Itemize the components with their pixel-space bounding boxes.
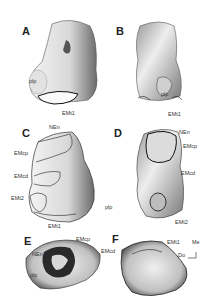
annotation-emcd: EMcd [14,174,28,180]
annotation-nen: NEn [32,252,43,258]
annotation-emt1: EMt1 [48,224,61,230]
panel-label-a: A [22,26,30,37]
annotation-nen: NEn [49,125,60,131]
annotation-emcp: EMcp [14,151,28,157]
orientation-dorsal: Do [178,253,185,259]
annotation-emcp: EMcp [183,144,197,150]
annotation-plp: plp [29,79,36,85]
bone-view-e [26,240,100,289]
annotation-emt1: EMt1 [168,112,181,118]
annotation-plp: plp [161,92,168,98]
panel-label-e: E [24,236,31,247]
bone-view-c [29,132,94,222]
annotation-plp: plp [105,205,112,211]
panel-label-f: F [112,234,119,245]
annotation-emt1: EMt1 [167,240,180,246]
bone-view-f [121,241,196,296]
annotation-emt2: EMt2 [175,220,188,226]
panel-label-d: D [114,128,122,139]
orientation-medial: Me [192,240,200,246]
bone-illustrations [0,0,210,306]
annotation-plp: plp [30,273,37,279]
bone-view-b [136,22,182,101]
panel-label-c: C [22,128,30,139]
annotation-emcd: EMcd [101,249,115,255]
panel-label-b: B [116,26,124,37]
annotation-emcp: EMcp [76,237,90,243]
annotation-emt2: EMt2 [11,196,24,202]
bone-view-a [29,20,97,104]
annotation-emcd: EMcd [181,171,195,177]
annotation-emt1: EMt1 [62,111,75,117]
annotation-nen: NEn [179,130,190,136]
bone-view-d [137,129,184,218]
